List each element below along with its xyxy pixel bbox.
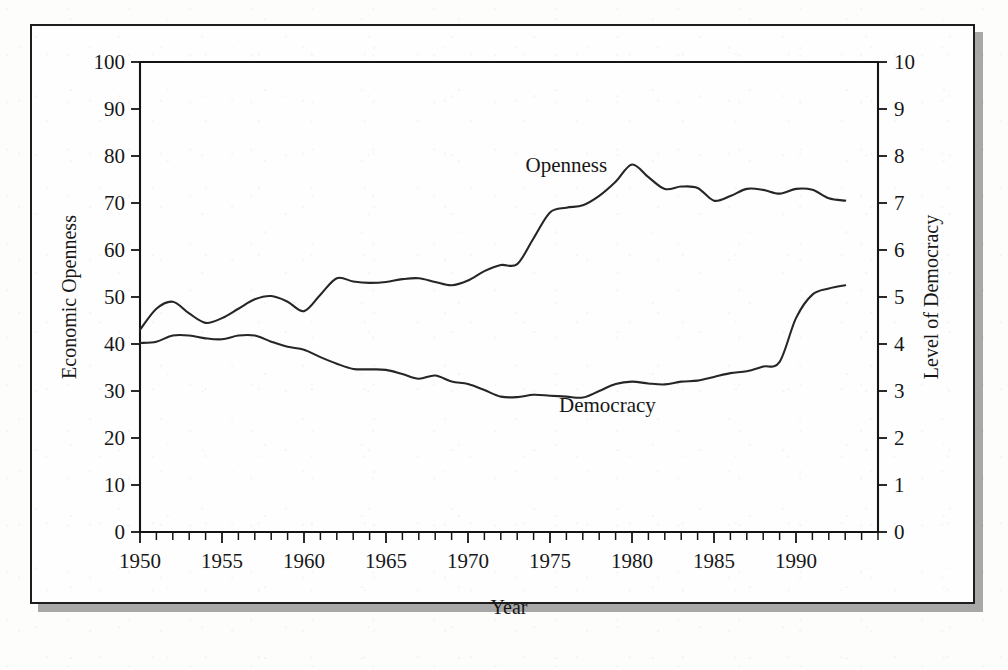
right-tick-label: 7 [894, 191, 905, 215]
series-annotation-openness: Openness [526, 153, 608, 177]
bottom-tick-label: 1980 [611, 549, 653, 573]
right-tick-label: 9 [894, 97, 905, 121]
left-axis-tick-labels: 0102030405060708090100 [94, 50, 126, 544]
left-tick-label: 90 [104, 97, 125, 121]
scanned-page: 0102030405060708090100 012345678910 1950… [0, 0, 1008, 670]
chart-container: 0102030405060708090100 012345678910 1950… [0, 0, 1008, 670]
left-tick-label: 70 [104, 191, 125, 215]
series-annotation-democracy: Democracy [559, 393, 656, 417]
bottom-tick-label: 1970 [447, 549, 489, 573]
bottom-axis-ticks [140, 532, 878, 543]
right-tick-label: 8 [894, 144, 905, 168]
right-axis-tick-labels: 012345678910 [894, 50, 915, 544]
bottom-tick-label: 1990 [775, 549, 817, 573]
bottom-tick-label: 1950 [119, 549, 161, 573]
right-tick-label: 0 [894, 520, 905, 544]
data-series-group [140, 164, 845, 397]
bottom-axis-tick-labels: 195019551960196519701975198019851990 [119, 549, 817, 573]
x-axis-title: Year [491, 596, 528, 618]
right-tick-label: 4 [894, 332, 905, 356]
left-tick-label: 40 [104, 332, 125, 356]
left-tick-label: 20 [104, 426, 125, 450]
left-axis-ticks [131, 62, 140, 532]
right-tick-label: 6 [894, 238, 905, 262]
right-axis-ticks [878, 62, 887, 532]
series-line-openness [140, 164, 845, 329]
line-chart: 0102030405060708090100 012345678910 1950… [0, 0, 1008, 670]
right-tick-label: 2 [894, 426, 905, 450]
left-tick-label: 0 [115, 520, 126, 544]
left-tick-label: 50 [104, 285, 125, 309]
bottom-tick-label: 1985 [693, 549, 735, 573]
bottom-tick-label: 1975 [529, 549, 571, 573]
y2-axis-title: Level of Democracy [920, 215, 943, 379]
right-tick-label: 1 [894, 473, 905, 497]
left-tick-label: 60 [104, 238, 125, 262]
bottom-tick-label: 1965 [365, 549, 407, 573]
series-annotations: OpennessDemocracy [526, 153, 657, 417]
left-tick-label: 10 [104, 473, 125, 497]
bottom-tick-label: 1955 [201, 549, 243, 573]
y-axis-title: Economic Openness [58, 215, 81, 379]
bottom-tick-label: 1960 [283, 549, 325, 573]
series-line-democracy [140, 285, 845, 398]
left-tick-label: 100 [94, 50, 126, 74]
left-tick-label: 30 [104, 379, 125, 403]
right-tick-label: 3 [894, 379, 905, 403]
right-tick-label: 5 [894, 285, 905, 309]
right-tick-label: 10 [894, 50, 915, 74]
axes-group [140, 62, 878, 532]
left-tick-label: 80 [104, 144, 125, 168]
